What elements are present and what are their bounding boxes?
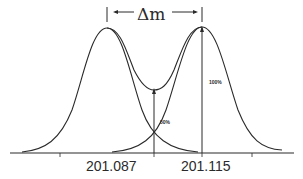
left-arrow-icon <box>113 10 118 14</box>
left-peak-curve <box>22 28 198 152</box>
right-arrow-icon <box>193 10 198 14</box>
sum-envelope-curve <box>107 27 202 90</box>
valley-arrow-icon <box>152 88 156 94</box>
delta-m-label: Δm <box>137 4 165 24</box>
mass-resolution-diagram: Δm 100% 50% 201.087 201.115 <box>0 0 303 179</box>
tick-label-right: 201.115 <box>181 158 231 174</box>
peaks-plot <box>0 0 303 179</box>
valley-height-label: 50% <box>160 119 170 125</box>
tick-label-left: 201.087 <box>86 158 137 174</box>
right-peak-curve <box>112 27 282 152</box>
axis-ticks <box>60 153 252 157</box>
peak-height-label: 100% <box>209 79 222 85</box>
